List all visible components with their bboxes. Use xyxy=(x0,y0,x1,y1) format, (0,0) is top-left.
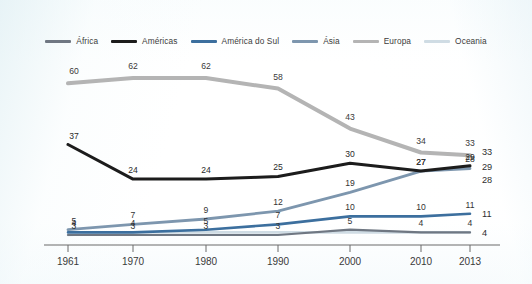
x-axis-label-1980: 1980 xyxy=(195,256,217,267)
data-label: 62 xyxy=(128,61,138,71)
x-axis-label-2000: 2000 xyxy=(339,256,361,267)
series-end-label: 29 xyxy=(482,162,492,172)
data-label: 5 xyxy=(204,216,209,226)
data-label: 60 xyxy=(69,66,79,76)
data-label: 24 xyxy=(128,165,138,175)
data-label: 9 xyxy=(204,205,209,215)
series-end-label: 4 xyxy=(482,228,487,238)
data-label: 7 xyxy=(131,210,136,220)
chart-plot-area xyxy=(0,0,532,284)
data-label: 3 xyxy=(276,221,281,231)
data-label: 10 xyxy=(416,202,426,212)
data-label: 19 xyxy=(345,178,355,188)
data-label: 30 xyxy=(345,149,355,159)
x-axis-label-2010: 2010 xyxy=(410,256,432,267)
data-label: 24 xyxy=(201,165,211,175)
series-end-label: 28 xyxy=(482,175,492,185)
data-label: 12 xyxy=(273,197,283,207)
x-axis-label-1970: 1970 xyxy=(122,256,144,267)
series-line-europa[interactable] xyxy=(68,78,470,155)
x-axis-label-2013: 2013 xyxy=(459,256,481,267)
data-label: 37 xyxy=(69,131,79,141)
series-end-label: 11 xyxy=(482,209,492,219)
data-label: 62 xyxy=(201,61,211,71)
data-label: 4 xyxy=(419,218,424,228)
x-axis-label-1961: 1961 xyxy=(57,256,79,267)
data-label: 7 xyxy=(276,210,281,220)
data-label: 34 xyxy=(416,136,426,146)
data-label: 25 xyxy=(273,162,283,172)
data-label: 58 xyxy=(273,72,283,82)
data-label: 28 xyxy=(465,154,475,164)
data-label: 10 xyxy=(345,202,355,212)
data-label: 11 xyxy=(466,200,475,210)
data-label: 43 xyxy=(345,112,355,122)
data-label: 4 xyxy=(468,218,473,228)
x-axis-label-1990: 1990 xyxy=(267,256,289,267)
series-end-label: 33 xyxy=(482,147,492,157)
data-label: 27 xyxy=(416,157,426,167)
data-label: 5 xyxy=(348,216,353,226)
series-line-américa-do-sul[interactable] xyxy=(68,214,470,233)
line-chart: ÁfricaAméricasAmérica do SulÁsiaEuropaOc… xyxy=(0,0,532,284)
data-label: 5 xyxy=(72,216,77,226)
data-label: 33 xyxy=(465,138,475,148)
